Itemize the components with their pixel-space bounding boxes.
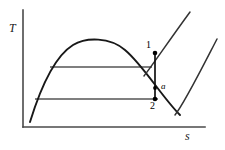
ts-diagram-figure: T s 1 2 a <box>0 0 225 150</box>
state-point-2-label: 2 <box>150 101 155 111</box>
state-point-1-marker <box>153 51 158 56</box>
state-point-1-label: 1 <box>146 40 151 50</box>
temperature-axis-label: T <box>9 22 16 34</box>
vapor-dome-curve <box>30 40 180 122</box>
diagram-canvas <box>0 0 225 150</box>
state-point-a-marker <box>153 86 157 90</box>
state-point-a-label: a <box>161 82 166 91</box>
entropy-axis-label: s <box>185 130 190 142</box>
superheat-isobar-outer-curve <box>175 39 217 115</box>
